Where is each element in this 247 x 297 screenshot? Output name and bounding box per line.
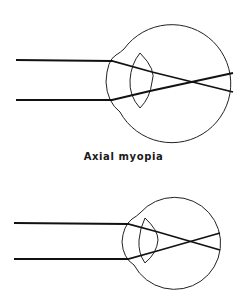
diagram-canvas xyxy=(0,0,247,297)
bottom-ray-upper xyxy=(14,223,220,250)
top-eye-diagram xyxy=(16,25,233,143)
figure-caption: Axial myopia xyxy=(0,151,247,162)
top-ray-upper xyxy=(16,60,233,92)
top-eyeball-outline xyxy=(106,25,231,143)
top-lens xyxy=(130,53,153,108)
top-ray-lower xyxy=(16,73,233,100)
bottom-lens xyxy=(139,218,158,263)
bottom-ray-lower xyxy=(14,233,220,259)
bottom-eyeball-outline xyxy=(122,197,221,289)
bottom-eye-diagram xyxy=(14,197,221,289)
